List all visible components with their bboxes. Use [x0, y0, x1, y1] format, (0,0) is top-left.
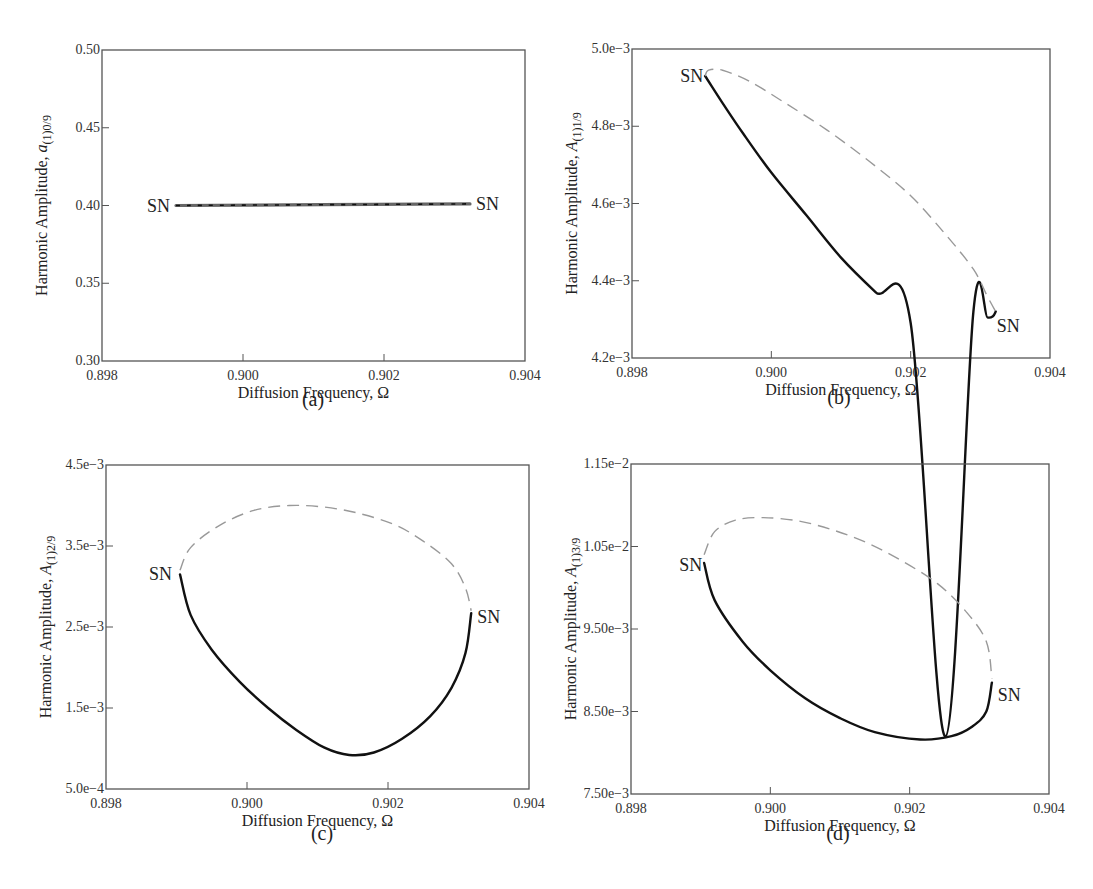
- y-tick-label: 7.50e−3: [583, 786, 629, 801]
- sn-annotation: SN: [998, 685, 1021, 705]
- x-tick-label: 0.904: [1033, 801, 1065, 816]
- x-tick-label: 0.898: [615, 801, 647, 816]
- plot-d: 0.8980.9000.9020.9047.50e−38.50e−39.50e−…: [0, 0, 1093, 889]
- panel-d: 0.8980.9000.9020.9047.50e−38.50e−39.50e−…: [0, 0, 1093, 889]
- caption-d: (d): [826, 822, 849, 845]
- y-axis-label: Harmonic Amplitude, A(1)3/9: [562, 538, 583, 721]
- series-stable: [704, 563, 992, 740]
- x-tick-label: 0.900: [755, 801, 787, 816]
- plot-frame: [631, 464, 1049, 794]
- y-tick-label: 1.15e−2: [583, 456, 629, 471]
- sn-annotation: SN: [679, 555, 702, 575]
- y-tick-label: 1.05e−2: [583, 539, 629, 554]
- y-tick-label: 9.50e−3: [583, 621, 629, 636]
- y-tick-label: 8.50e−3: [583, 704, 629, 719]
- x-tick-label: 0.902: [894, 801, 926, 816]
- series-unstable: [704, 518, 992, 679]
